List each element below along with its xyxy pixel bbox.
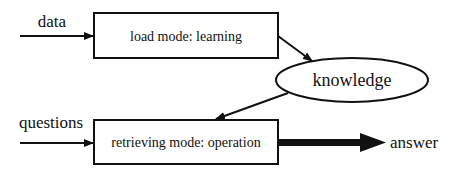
data-label: data bbox=[38, 12, 67, 31]
diagram-canvas: data load mode: learning knowledge quest… bbox=[0, 0, 457, 175]
answer-arrow bbox=[279, 133, 386, 152]
knowledge-to-retrieving-arrow bbox=[216, 93, 288, 119]
questions-label: questions bbox=[19, 113, 83, 132]
knowledge-ellipse: knowledge bbox=[276, 58, 428, 102]
load-mode-label: load mode: learning bbox=[130, 29, 242, 44]
answer-label: answer bbox=[390, 133, 438, 152]
learning-to-knowledge-arrow bbox=[278, 36, 312, 61]
load-mode-box: load mode: learning bbox=[94, 13, 278, 58]
knowledge-label: knowledge bbox=[313, 70, 392, 90]
retrieving-mode-label: retrieving mode: operation bbox=[111, 135, 260, 150]
retrieving-mode-box: retrieving mode: operation bbox=[94, 120, 278, 164]
